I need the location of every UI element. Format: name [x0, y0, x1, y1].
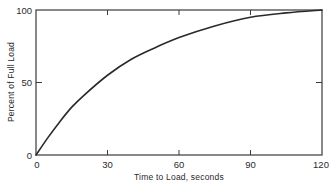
y-tick-label-0: 0 — [27, 150, 32, 161]
load-curve-chart: 100 50 0 0 30 60 90 120 Time to Load, se… — [0, 0, 330, 185]
load-curve-line — [36, 10, 322, 155]
x-tick-label-90: 90 — [245, 159, 256, 170]
x-tick-label-30: 30 — [102, 159, 113, 170]
y-axis-title: Percent of Full Load — [6, 42, 16, 122]
x-tick-labels: 0 30 60 90 120 — [34, 159, 329, 170]
y-tick-label-100: 100 — [16, 5, 32, 16]
axis-ticks — [36, 10, 322, 155]
x-axis-title: Time to Load, seconds — [134, 172, 224, 182]
plot-frame — [36, 10, 322, 155]
y-tick-labels: 100 50 0 — [16, 5, 32, 161]
x-tick-label-60: 60 — [174, 159, 185, 170]
x-tick-label-0: 0 — [34, 159, 39, 170]
x-tick-label-120: 120 — [313, 159, 329, 170]
y-tick-label-50: 50 — [21, 77, 32, 88]
